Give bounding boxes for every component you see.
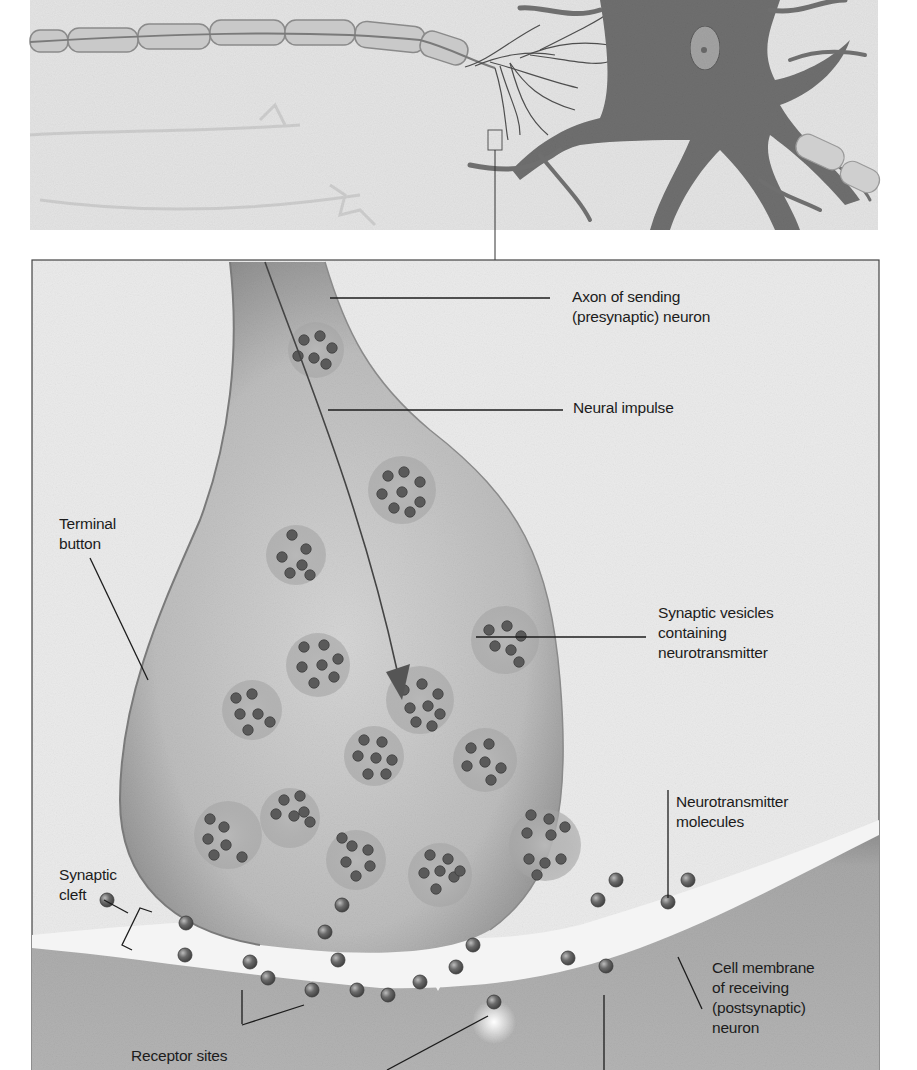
neuron-overview-panel	[30, 0, 883, 260]
label-cell-membrane-postsynaptic: Cell membrane of receiving (postsynaptic…	[712, 958, 815, 1038]
label-receptor-sites: Receptor sites	[131, 1046, 227, 1066]
diagram-canvas	[0, 0, 917, 1070]
label-neurotransmitter-molecules: Neurotransmitter molecules	[676, 792, 788, 832]
synapse-closeup-panel	[32, 260, 879, 1070]
label-synaptic-vesicles: Synaptic vesicles containing neurotransm…	[658, 603, 773, 663]
label-synaptic-cleft: Synaptic cleft	[59, 865, 117, 905]
label-neural-impulse: Neural impulse	[573, 398, 674, 418]
label-axon-presynaptic: Axon of sending (presynaptic) neuron	[572, 287, 710, 327]
label-terminal-button: Terminal button	[59, 514, 116, 554]
synapse-diagram: Axon of sending (presynaptic) neuron Neu…	[0, 0, 917, 1070]
